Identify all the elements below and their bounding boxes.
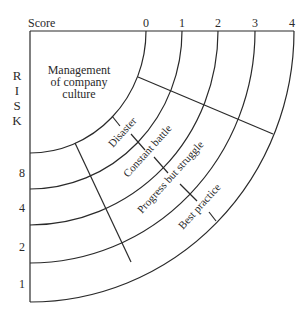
risk-letter-s: S (13, 98, 20, 113)
risk-tick-1: 1 (19, 277, 25, 291)
tick-mark (209, 212, 216, 221)
center-label-line-3: culture (62, 87, 95, 101)
risk-letter-r: R (13, 68, 22, 83)
tick-mark (112, 116, 120, 126)
risk-score-quadrant-diagram: Score 0 1 2 3 4 R I S K 8 4 2 1 Manageme… (0, 0, 308, 315)
score-tick-3: 3 (252, 16, 258, 30)
arc-score-1 (30, 31, 182, 189)
risk-letter-i: I (15, 83, 19, 98)
risk-letter-k: K (12, 113, 22, 128)
risk-tick-4: 4 (19, 201, 25, 215)
score-tick-0: 0 (143, 16, 149, 30)
score-tick-1: 1 (179, 16, 185, 30)
radial-divider-upper (138, 77, 273, 134)
risk-tick-2: 2 (19, 240, 25, 254)
score-tick-2: 2 (215, 16, 221, 30)
radial-divider-lower (75, 143, 131, 262)
score-axis-title: Score (28, 16, 55, 30)
score-tick-4: 4 (289, 16, 295, 30)
tick-mark (180, 184, 197, 201)
risk-tick-8: 8 (19, 166, 25, 180)
